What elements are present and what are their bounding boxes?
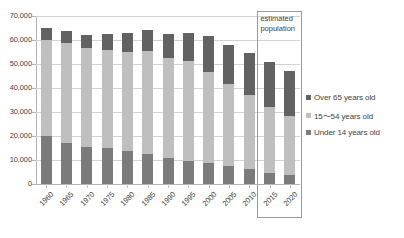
bar-segment-15-54 (203, 72, 214, 163)
legend-item-2[interactable]: Under 14 years old (306, 128, 380, 137)
bar-1970 (81, 35, 92, 184)
bar-segment-over-65 (284, 71, 295, 115)
bar-2010 (244, 53, 255, 184)
bar-segment-15-54 (41, 40, 52, 136)
y-tick-label: 50,000 (10, 59, 32, 68)
estimated-population-label: estimated population (260, 14, 299, 33)
bar-segment-under-14 (122, 151, 133, 184)
x-tick-mark (66, 184, 67, 188)
legend-swatch-icon (306, 113, 311, 118)
bar-segment-15-54 (81, 48, 92, 146)
bar-1975 (102, 34, 113, 184)
bar-segment-under-14 (142, 154, 153, 184)
bar-segment-15-54 (122, 52, 133, 151)
bar-segment-15-54 (223, 84, 234, 167)
x-tick-label-1980: 1980 (116, 190, 137, 211)
bar-segment-under-14 (61, 143, 72, 184)
bar-2020 (284, 71, 295, 184)
bar-segment-15-54 (102, 50, 113, 148)
x-tick-mark (148, 184, 149, 188)
y-tick-label: 70,000 (10, 11, 32, 20)
y-tick-label: 0 (28, 179, 32, 188)
bar-segment-under-14 (203, 163, 214, 184)
bar-segment-over-65 (244, 53, 255, 95)
x-tick-mark (209, 184, 210, 188)
chart-legend: Over 65 years old15〜54 years oldUnder 14… (306, 93, 380, 137)
x-tick-mark (46, 184, 47, 188)
y-tick-label: 20,000 (10, 131, 32, 140)
bar-2000 (203, 36, 214, 184)
bar-segment-over-65 (142, 30, 153, 51)
y-tick-label: 10,000 (10, 155, 32, 164)
x-tick-label-2000: 2000 (197, 190, 218, 211)
x-tick-mark (127, 184, 128, 188)
x-tick-label-1995: 1995 (177, 190, 198, 211)
bar-1980 (122, 33, 133, 184)
bar-segment-under-14 (81, 147, 92, 184)
bar-segment-over-65 (203, 36, 214, 71)
bar-segment-over-65 (122, 33, 133, 52)
bar-segment-15-54 (183, 61, 194, 160)
bar-2015 (264, 62, 275, 184)
x-tick-label-1990: 1990 (157, 190, 178, 211)
x-tick-label-1985: 1985 (137, 190, 158, 211)
x-tick-label-2015: 2015 (258, 190, 279, 211)
bar-segment-over-65 (81, 35, 92, 48)
x-tick-mark (168, 184, 169, 188)
bar-segment-over-65 (264, 62, 275, 107)
plot-area (36, 16, 300, 184)
bar-1960 (41, 28, 52, 184)
legend-item-0[interactable]: Over 65 years old (306, 93, 380, 102)
bar-segment-15-54 (284, 116, 295, 176)
x-tick-label-1960: 1960 (35, 190, 56, 211)
bar-segment-over-65 (163, 34, 174, 58)
x-tick-mark (87, 184, 88, 188)
bar-segment-over-65 (183, 33, 194, 61)
x-tick-mark (229, 184, 230, 188)
bar-2005 (223, 45, 234, 184)
legend-label: Under 14 years old (314, 128, 380, 137)
x-tick-mark (188, 184, 189, 188)
x-tick-mark (107, 184, 108, 188)
x-tick-label-1965: 1965 (55, 190, 76, 211)
x-tick-label-2005: 2005 (218, 190, 239, 211)
bar-segment-under-14 (183, 161, 194, 184)
bar-1995 (183, 33, 194, 184)
bar-segment-under-14 (102, 148, 113, 184)
x-tick-label-2010: 2010 (238, 190, 259, 211)
bar-segment-under-14 (244, 169, 255, 184)
legend-swatch-icon (306, 95, 311, 100)
legend-label: Over 65 years old (314, 93, 375, 102)
bar-segment-15-54 (163, 58, 174, 159)
x-tick-label-1970: 1970 (76, 190, 97, 211)
legend-label: 15〜54 years old (314, 110, 373, 121)
bar-1990 (163, 34, 174, 184)
bar-segment-over-65 (61, 31, 72, 43)
y-tick-label: 60,000 (10, 35, 32, 44)
bar-segment-15-54 (264, 107, 275, 173)
x-tick-label-1975: 1975 (96, 190, 117, 211)
x-tick-mark (249, 184, 250, 188)
bar-segment-over-65 (223, 45, 234, 84)
x-tick-mark (270, 184, 271, 188)
bar-segment-15-54 (61, 43, 72, 142)
bar-segment-under-14 (163, 158, 174, 184)
bar-1965 (61, 31, 72, 184)
bar-segment-over-65 (102, 34, 113, 50)
legend-item-1[interactable]: 15〜54 years old (306, 110, 380, 121)
y-tick-label: 40,000 (10, 83, 32, 92)
bar-segment-15-54 (244, 95, 255, 169)
legend-swatch-icon (306, 130, 311, 135)
bar-segment-under-14 (41, 136, 52, 184)
bar-segment-under-14 (223, 166, 234, 184)
x-tick-label-2020: 2020 (279, 190, 300, 211)
x-tick-mark (290, 184, 291, 188)
bar-segment-over-65 (41, 28, 52, 40)
bar-segment-under-14 (284, 175, 295, 184)
stacked-bar-chart: 70,00060,00050,00040,00030,00020,00010,0… (0, 0, 404, 238)
bar-1985 (142, 30, 153, 184)
bar-segment-15-54 (142, 51, 153, 154)
bar-segment-under-14 (264, 173, 275, 184)
y-tick-label: 30,000 (10, 107, 32, 116)
y-tick-mark (32, 184, 36, 185)
